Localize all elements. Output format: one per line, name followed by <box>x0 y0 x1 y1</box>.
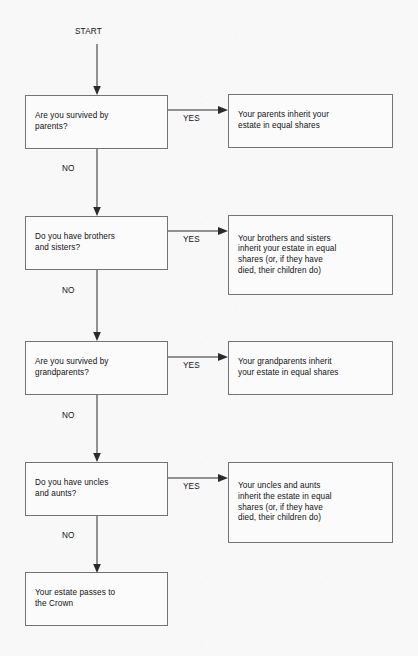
outcome-node-grandparents[interactable]: Your grandparents inherit your estate in… <box>228 341 393 395</box>
edge-start-to-q1 <box>90 44 104 96</box>
no-label-row1: NO <box>62 164 75 174</box>
yes-label-row3: YES <box>183 361 200 371</box>
edge-q1-no <box>90 149 104 217</box>
decision-node-parents[interactable]: Are you survived by parents? <box>25 95 168 149</box>
outcome-node-siblings[interactable]: Your brothers and sisters inherit your e… <box>228 215 393 295</box>
no-label-row3: NO <box>62 411 75 421</box>
terminal-node-crown[interactable]: Your estate passes to the Crown <box>25 572 168 626</box>
decision-node-uncles[interactable]: Do you have uncles and aunts? <box>25 462 168 516</box>
edge-q2-no <box>90 270 104 342</box>
decision-node-grandparents[interactable]: Are you survived by grandparents? <box>25 341 168 395</box>
edge-q4-no <box>90 516 104 574</box>
no-label-row4: NO <box>62 531 75 541</box>
outcome-node-parents[interactable]: Your parents inherit your estate in equa… <box>228 94 393 148</box>
no-label-row2: NO <box>62 286 75 296</box>
flowchart-canvas: START Are you survived by parents? Your … <box>0 0 418 656</box>
yes-label-row1: YES <box>183 114 200 124</box>
decision-node-siblings[interactable]: Do you have brothers and sisters? <box>25 216 168 270</box>
start-label: START <box>75 27 102 37</box>
yes-label-row2: YES <box>183 235 200 245</box>
yes-label-row4: YES <box>183 482 200 492</box>
edge-q3-no <box>90 395 104 463</box>
outcome-node-uncles[interactable]: Your uncles and aunts inherit the estate… <box>228 462 393 543</box>
